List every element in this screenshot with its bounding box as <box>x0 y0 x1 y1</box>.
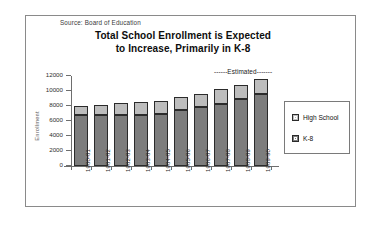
x-axis-label: 1986-87 <box>204 149 211 172</box>
y-axis-tick-label: 10000 <box>46 86 63 93</box>
bar-segment-high-school <box>194 94 208 107</box>
bar-segment-high-school <box>94 105 108 116</box>
y-axis-tick-label: 4000 <box>49 131 63 138</box>
bar-segment-high-school <box>234 85 248 99</box>
y-axis-tick: 12000 <box>66 75 71 76</box>
chart-legend: High SchoolK-8 <box>284 101 350 154</box>
x-axis-tick <box>271 166 272 170</box>
y-axis-tick: 4000 <box>66 135 71 136</box>
y-axis-tick: 2000 <box>66 150 71 151</box>
y-axis-tick-label: 8000 <box>49 101 63 108</box>
x-axis-label: 1984-85 <box>164 149 171 172</box>
bar-segment-high-school <box>214 89 228 104</box>
x-axis-label: 1989-90 <box>264 149 271 172</box>
chart-title: Total School Enrollment is Expected to I… <box>58 30 308 55</box>
legend-label: High School <box>303 114 339 121</box>
y-axis-tick-label: 2000 <box>49 146 63 153</box>
x-axis-tick <box>251 166 252 170</box>
source-note: Source: Board of Education <box>60 19 141 26</box>
chart-title-line-2: to Increase, Primarily in K-8 <box>58 43 308 56</box>
legend-swatch-icon <box>292 135 299 142</box>
x-axis-label: 1985-86 <box>184 149 191 172</box>
estimated-annotation: ------Estimated------- <box>214 68 272 75</box>
y-axis-tick-label: 12000 <box>46 71 63 78</box>
x-axis-tick <box>191 166 192 170</box>
legend-item: K-8 <box>292 135 313 142</box>
x-axis-label: 1987-88 <box>224 149 231 172</box>
x-axis-tick <box>111 166 112 170</box>
y-axis-title: Enrollment <box>34 96 40 156</box>
x-axis-label: 1980-81 <box>84 149 91 172</box>
bar-segment-high-school <box>134 102 148 115</box>
x-axis-tick <box>211 166 212 170</box>
plot-area: 0200040006000800010000120001980-811981-8… <box>71 76 271 166</box>
x-axis-tick <box>151 166 152 170</box>
x-axis-tick <box>71 166 72 170</box>
y-axis-tick: 6000 <box>66 120 71 121</box>
x-axis-label: 1988-89 <box>244 149 251 172</box>
legend-label: K-8 <box>303 135 313 142</box>
x-axis-tick <box>231 166 232 170</box>
y-axis-tick: 8000 <box>66 105 71 106</box>
legend-item: High School <box>292 114 339 121</box>
bar-segment-high-school <box>254 79 268 94</box>
x-axis-label: 1983-84 <box>144 149 151 172</box>
x-axis-label: 1982-83 <box>124 149 131 172</box>
bar-segment-high-school <box>74 106 88 115</box>
legend-swatch-icon <box>292 114 299 121</box>
bar-segment-high-school <box>154 101 168 114</box>
x-axis-label: 1981-82 <box>104 149 111 172</box>
chart-title-line-1: Total School Enrollment is Expected <box>58 30 308 43</box>
chart-figure: Source: Board of Education Total School … <box>0 0 382 225</box>
bar-segment-high-school <box>114 103 128 115</box>
y-axis-tick-label: 6000 <box>49 116 63 123</box>
y-axis-tick: 10000 <box>66 90 71 91</box>
x-axis-tick <box>131 166 132 170</box>
y-axis-tick-label: 0 <box>60 161 63 168</box>
x-axis-tick <box>171 166 172 170</box>
bar-segment-high-school <box>174 97 188 111</box>
x-axis-tick <box>91 166 92 170</box>
